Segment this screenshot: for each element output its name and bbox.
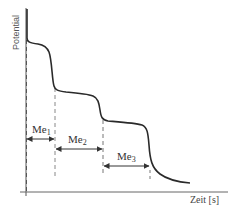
x-axis-label: Zeit [s] xyxy=(190,194,219,205)
me2-label: Me2 xyxy=(68,133,87,147)
me1-label: Me1 xyxy=(32,123,51,137)
me3-label-sub: 3 xyxy=(132,155,136,164)
me2-label-sub: 2 xyxy=(83,138,87,147)
me1-label-base: Me xyxy=(32,123,47,135)
y-axis-label: Potential xyxy=(11,15,21,50)
me2-label-base: Me xyxy=(68,133,83,145)
potential-curve xyxy=(27,9,190,183)
me1-label-sub: 1 xyxy=(47,128,51,137)
me3-label: Me3 xyxy=(117,150,136,164)
chart-canvas xyxy=(0,0,244,219)
me3-label-base: Me xyxy=(117,150,132,162)
